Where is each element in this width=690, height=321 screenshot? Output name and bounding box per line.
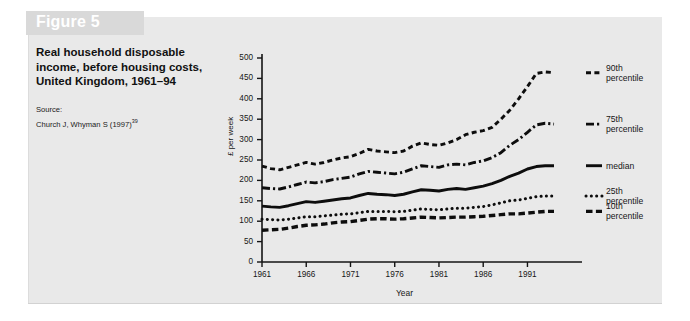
series-line-1 <box>262 123 554 189</box>
legend-label-line: 10th <box>606 201 643 211</box>
legend-label-line: 25th <box>606 186 643 196</box>
source-reference-number: 39 <box>132 118 138 124</box>
legend-label-line: median <box>606 161 634 171</box>
figure-title: Real household disposable income, before… <box>36 45 204 89</box>
y-tick-label: 100 <box>218 216 253 225</box>
y-tick-label: 0 <box>218 257 253 266</box>
figure-title-line-3: United Kingdom, 1961–94 <box>36 74 204 89</box>
series-group <box>262 72 554 230</box>
x-axis-title: Year <box>396 288 413 298</box>
figure-title-line-1: Real household disposable <box>36 45 204 60</box>
y-tick-label: 50 <box>218 237 253 246</box>
series-line-4 <box>262 211 554 230</box>
legend-label-4: 10thpercentile <box>606 201 643 221</box>
y-tick-label: 300 <box>218 135 253 144</box>
y-tick-label: 500 <box>218 53 253 62</box>
y-axis-title: £ per week <box>226 117 235 156</box>
axes-group <box>257 54 582 267</box>
x-tick-label: 1966 <box>292 270 320 279</box>
source-heading: Source: <box>36 105 216 116</box>
figure-title-line-2: income, before housing costs, <box>36 60 204 75</box>
x-tick-label: 1981 <box>425 270 453 279</box>
legend-label-line: percentile <box>606 124 643 134</box>
source-citation-line: Church J, Whyman S (1997)39 <box>36 116 216 130</box>
legend-label-2: median <box>606 161 634 171</box>
legend-label-line: 90th <box>606 63 643 73</box>
source-citation: Church J, Whyman S (1997) <box>36 119 132 128</box>
y-tick-label: 350 <box>218 114 253 123</box>
y-tick-label: 200 <box>218 175 253 184</box>
legend-label-line: 75th <box>606 114 643 124</box>
panel-bottom-edge <box>28 303 662 304</box>
legend-label-0: 90thpercentile <box>606 63 643 83</box>
x-tick-label: 1971 <box>336 270 364 279</box>
legend-label-line: percentile <box>606 211 643 221</box>
legend-line-stubs <box>586 73 602 212</box>
legend-label-1: 75thpercentile <box>606 114 643 134</box>
y-tick-label: 150 <box>218 196 253 205</box>
series-line-3 <box>262 196 554 220</box>
figure-number-label: Figure 5 <box>36 13 100 31</box>
legend-label-line: percentile <box>606 73 643 83</box>
source-block: Source: Church J, Whyman S (1997)39 <box>36 105 216 130</box>
y-tick-label: 450 <box>218 73 253 82</box>
chart-area: 0501001502002503003504004505001961196619… <box>218 40 658 290</box>
x-tick-label: 1986 <box>469 270 497 279</box>
x-tick-label: 1991 <box>513 270 541 279</box>
panel-left-edge <box>28 17 29 304</box>
y-tick-label: 250 <box>218 155 253 164</box>
line-chart-plot <box>218 40 658 290</box>
series-line-0 <box>262 72 554 170</box>
x-tick-label: 1961 <box>248 270 276 279</box>
y-tick-label: 400 <box>218 94 253 103</box>
x-tick-label: 1976 <box>381 270 409 279</box>
